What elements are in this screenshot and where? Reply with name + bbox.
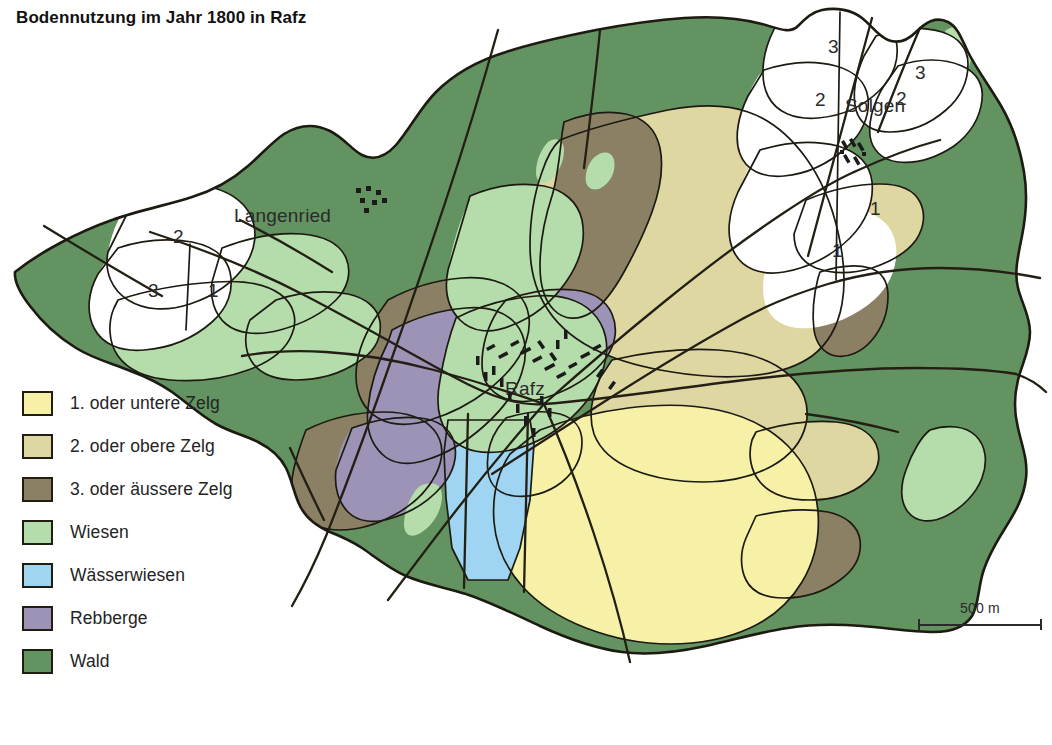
legend-label-rebberge: Rebberge bbox=[70, 608, 148, 629]
place-label-langenried: Langenried bbox=[234, 205, 331, 227]
zelg-number-solgen-2-west: 2 bbox=[815, 89, 826, 111]
scalebar-line bbox=[918, 624, 1042, 626]
scalebar-tick-right bbox=[1040, 619, 1042, 630]
legend-label-zelg1: 1. oder untere Zelg bbox=[70, 393, 220, 414]
scalebar-rule bbox=[918, 619, 1042, 630]
zelg-number-langenried-3: 3 bbox=[148, 280, 159, 302]
legend-label-wiesen: Wiesen bbox=[70, 522, 129, 543]
zelg-number-solgen-3-north: 3 bbox=[828, 36, 839, 58]
legend-item-wiesen: Wiesen bbox=[22, 511, 272, 554]
legend-swatch-wiesen bbox=[22, 520, 53, 545]
zelg-number-solgen-1-lower: 1 bbox=[832, 240, 843, 262]
land-use-map-figure: Bodennutzung im Jahr 1800 in Rafz bbox=[0, 0, 1052, 745]
legend-item-zelg3: 3. oder äussere Zelg bbox=[22, 468, 272, 511]
place-label-rafz: Rafz bbox=[505, 378, 545, 400]
scalebar-tick-left bbox=[918, 619, 920, 630]
legend-label-zelg2: 2. oder obere Zelg bbox=[70, 436, 215, 457]
legend-swatch-rebberge bbox=[22, 606, 53, 631]
legend-swatch-zelg3 bbox=[22, 477, 53, 502]
legend-item-rebberge: Rebberge bbox=[22, 597, 272, 640]
zelg-number-solgen-1-upper: 1 bbox=[870, 198, 881, 220]
zelg-number-solgen-3-east: 3 bbox=[915, 62, 926, 84]
map-scalebar: 500 m bbox=[918, 600, 1042, 630]
zelg-number-solgen-2-east: 2 bbox=[896, 88, 907, 110]
scalebar-label: 500 m bbox=[918, 600, 1042, 616]
legend-item-zelg1: 1. oder untere Zelg bbox=[22, 382, 272, 425]
legend-item-wald: Wald bbox=[22, 640, 272, 683]
legend-label-zelg3: 3. oder äussere Zelg bbox=[70, 479, 233, 500]
legend-label-wald: Wald bbox=[70, 651, 110, 672]
zelg-number-langenried-1: 1 bbox=[208, 280, 219, 302]
legend-item-waesserwiesen: Wässerwiesen bbox=[22, 554, 272, 597]
legend-label-waesserwiesen: Wässerwiesen bbox=[70, 565, 185, 586]
zelg-number-langenried-2: 2 bbox=[173, 226, 184, 248]
legend-item-zelg2: 2. oder obere Zelg bbox=[22, 425, 272, 468]
legend-swatch-waesserwiesen bbox=[22, 563, 53, 588]
legend-swatch-zelg2 bbox=[22, 434, 53, 459]
legend-swatch-wald bbox=[22, 649, 53, 674]
map-legend: 1. oder untere Zelg 2. oder obere Zelg 3… bbox=[22, 382, 272, 683]
legend-swatch-zelg1 bbox=[22, 391, 53, 416]
